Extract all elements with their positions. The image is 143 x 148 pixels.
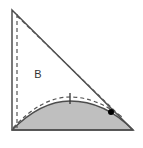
- point-marker: [108, 109, 114, 115]
- geometry-diagram: B: [0, 0, 143, 148]
- geometry-figure: B: [0, 0, 143, 148]
- region-label-b: B: [34, 68, 41, 80]
